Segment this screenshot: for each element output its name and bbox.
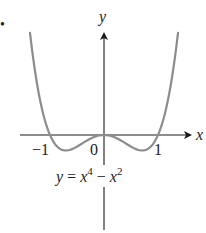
function-graph: • x y −1 0 1 y = x4 − x2 <box>0 0 206 233</box>
tick-label-neg1: −1 <box>32 141 49 158</box>
y-axis-label: y <box>97 8 107 26</box>
x-axis-label: x <box>195 126 203 143</box>
bullet-marker: • <box>0 17 5 32</box>
tick-label-1: 1 <box>154 141 162 158</box>
tick-label-0: 0 <box>90 141 98 158</box>
